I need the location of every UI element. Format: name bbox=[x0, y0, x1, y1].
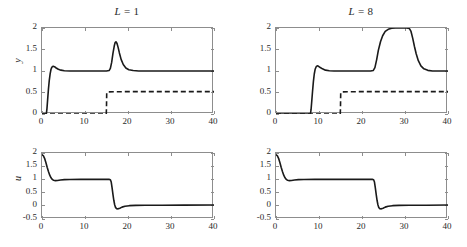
y-tick-label: 1.5 bbox=[243, 159, 271, 169]
y-tick-mark bbox=[445, 219, 448, 220]
x-tick-mark bbox=[128, 153, 129, 156]
y-tick-mark bbox=[42, 179, 45, 180]
y-tick-mark bbox=[276, 92, 279, 93]
y-tick-label: 2 bbox=[243, 21, 271, 31]
panel-bottom-right: -0.500.511.52010203040 bbox=[0, 0, 467, 247]
x-tick-mark bbox=[276, 111, 277, 114]
y-tick-mark bbox=[42, 153, 45, 154]
x-tick-mark bbox=[319, 216, 320, 219]
panel-top-right: L = 800.511.52010203040 bbox=[0, 0, 467, 247]
x-tick-mark bbox=[319, 111, 320, 114]
x-tick-label: 30 bbox=[156, 116, 184, 126]
title-variable: L bbox=[349, 5, 355, 17]
x-tick-mark bbox=[362, 216, 363, 219]
y-tick-mark bbox=[42, 28, 45, 29]
y-tick-mark bbox=[211, 114, 214, 115]
panel-top-left-plot-area bbox=[41, 27, 213, 113]
y-tick-mark bbox=[42, 92, 45, 93]
x-tick-mark bbox=[128, 216, 129, 219]
x-tick-mark bbox=[85, 111, 86, 114]
y-tick-label: -0.5 bbox=[243, 212, 271, 222]
y-tick-label: 2 bbox=[9, 146, 37, 156]
panel-bottom-right-plot-area bbox=[275, 152, 447, 218]
y-tick-mark bbox=[211, 179, 214, 180]
y-tick-label: 0 bbox=[243, 199, 271, 209]
series-control-u bbox=[276, 155, 448, 209]
title-value: = 1 bbox=[121, 5, 139, 17]
x-tick-label: 10 bbox=[70, 116, 98, 126]
y-tick-mark bbox=[42, 205, 45, 206]
x-tick-label: 0 bbox=[261, 221, 289, 231]
panel-bottom-left-ylabel: u bbox=[12, 172, 23, 186]
x-tick-mark bbox=[85, 153, 86, 156]
x-tick-label: 30 bbox=[156, 221, 184, 231]
panel-top-right-title: L = 8 bbox=[275, 5, 447, 17]
y-tick-label: 0 bbox=[9, 107, 37, 117]
title-variable: L bbox=[115, 5, 121, 17]
panel-bottom-left: u-0.500.511.52010203040 bbox=[0, 0, 467, 247]
x-tick-label: 20 bbox=[113, 221, 141, 231]
y-tick-label: 0.5 bbox=[9, 186, 37, 196]
y-tick-mark bbox=[211, 166, 214, 167]
x-tick-mark bbox=[214, 216, 215, 219]
x-tick-label: 20 bbox=[347, 116, 375, 126]
y-tick-label: 2 bbox=[243, 146, 271, 156]
y-tick-label: -0.5 bbox=[9, 212, 37, 222]
x-tick-mark bbox=[128, 111, 129, 114]
x-tick-mark bbox=[319, 153, 320, 156]
panel-top-left: L = 1y00.511.52010203040 bbox=[0, 0, 467, 247]
y-tick-mark bbox=[211, 205, 214, 206]
series-control-u bbox=[42, 155, 214, 209]
y-tick-mark bbox=[42, 114, 45, 115]
panel-top-right-plot-area bbox=[275, 27, 447, 113]
x-tick-label: 0 bbox=[27, 116, 55, 126]
figure-root: L = 1y00.511.52010203040L = 800.511.5201… bbox=[0, 0, 467, 247]
y-tick-mark bbox=[276, 219, 279, 220]
x-tick-mark bbox=[362, 28, 363, 31]
y-tick-label: 2 bbox=[9, 21, 37, 31]
y-tick-label: 0.5 bbox=[9, 86, 37, 96]
x-tick-label: 40 bbox=[199, 221, 227, 231]
y-tick-mark bbox=[445, 49, 448, 50]
x-tick-mark bbox=[448, 28, 449, 31]
y-tick-mark bbox=[445, 205, 448, 206]
x-tick-mark bbox=[42, 111, 43, 114]
y-tick-mark bbox=[276, 114, 279, 115]
y-tick-mark bbox=[211, 49, 214, 50]
y-tick-label: 1 bbox=[9, 172, 37, 182]
y-tick-mark bbox=[445, 71, 448, 72]
y-tick-mark bbox=[445, 28, 448, 29]
y-tick-mark bbox=[42, 49, 45, 50]
x-tick-mark bbox=[319, 28, 320, 31]
x-tick-label: 40 bbox=[433, 221, 461, 231]
x-tick-mark bbox=[128, 28, 129, 31]
y-tick-label: 1 bbox=[243, 64, 271, 74]
y-tick-label: 1.5 bbox=[9, 159, 37, 169]
series-output-y bbox=[276, 28, 448, 114]
x-tick-mark bbox=[214, 111, 215, 114]
panel-top-right-curves bbox=[276, 28, 448, 114]
panel-top-left-title: L = 1 bbox=[41, 5, 213, 17]
series-disturbance-estimate bbox=[42, 92, 214, 114]
x-tick-label: 30 bbox=[390, 221, 418, 231]
x-tick-label: 10 bbox=[304, 116, 332, 126]
x-tick-label: 10 bbox=[70, 221, 98, 231]
y-tick-mark bbox=[276, 179, 279, 180]
x-tick-mark bbox=[276, 216, 277, 219]
y-tick-mark bbox=[276, 153, 279, 154]
y-tick-mark bbox=[276, 166, 279, 167]
y-tick-mark bbox=[211, 153, 214, 154]
x-tick-mark bbox=[42, 153, 43, 156]
y-tick-mark bbox=[276, 28, 279, 29]
y-tick-label: 1.5 bbox=[9, 43, 37, 53]
y-tick-mark bbox=[211, 219, 214, 220]
x-tick-mark bbox=[362, 111, 363, 114]
x-tick-label: 0 bbox=[27, 221, 55, 231]
x-tick-label: 10 bbox=[304, 221, 332, 231]
y-tick-mark bbox=[276, 71, 279, 72]
y-tick-mark bbox=[211, 92, 214, 93]
x-tick-label: 40 bbox=[433, 116, 461, 126]
x-tick-mark bbox=[405, 216, 406, 219]
y-tick-label: 0 bbox=[243, 107, 271, 117]
y-tick-label: 1.5 bbox=[243, 43, 271, 53]
